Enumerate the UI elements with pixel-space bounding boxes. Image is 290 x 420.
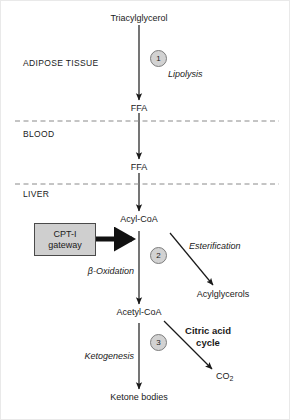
process-label-citric-acid-cycle: Citric acid cycle [185, 325, 231, 348]
process-label-lipolysis: Lipolysis [168, 69, 203, 80]
cpt1-gateway-line1: CPT-I [53, 229, 76, 240]
step-badge-1[interactable]: 1 [150, 50, 167, 67]
metabolite-ffa-blood: FFA [131, 162, 148, 173]
metabolite-co2: CO2 [216, 371, 233, 382]
metabolite-ketone-bodies: Ketone bodies [110, 392, 168, 403]
compartment-label-liver: LIVER [23, 189, 49, 200]
compartment-label-adipose-tissue: ADIPOSE TISSUE [23, 58, 99, 69]
cpt1-gateway-box[interactable]: CPT-I gateway [34, 223, 96, 256]
metabolite-acylglycerols: Acylglycerols [197, 289, 250, 300]
co2-text: CO [216, 371, 230, 381]
step-badge-2[interactable]: 2 [150, 247, 167, 264]
citric-acid-cycle-line1: Citric acid [185, 325, 231, 336]
metabolite-triacylglycerol: Triacylglycerol [110, 13, 167, 24]
metabolism-flow-diagram: Triacylglycerol FFA FFA Acyl-CoA Acetyl-… [0, 0, 290, 420]
process-label-esterification: Esterification [189, 241, 241, 252]
citric-acid-cycle-line2: cycle [196, 337, 220, 348]
process-label-beta-oxidation: β-Oxidation [88, 266, 134, 277]
process-label-ketogenesis: Ketogenesis [84, 351, 134, 362]
step-badge-3[interactable]: 3 [150, 334, 167, 351]
compartment-label-blood: BLOOD [23, 129, 55, 140]
metabolite-acetyl-coa: Acetyl-CoA [116, 307, 161, 318]
cpt1-gateway-line2: gateway [48, 240, 82, 251]
metabolite-acyl-coa: Acyl-CoA [120, 214, 158, 225]
metabolite-ffa-adipose: FFA [131, 103, 148, 114]
co2-subscript: 2 [230, 375, 234, 382]
